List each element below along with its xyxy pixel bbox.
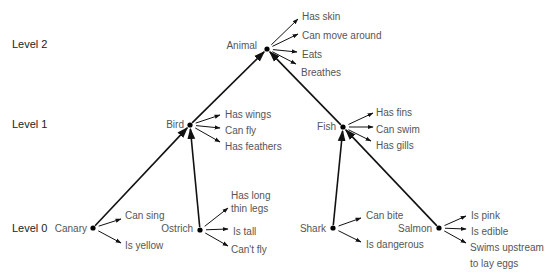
property-label: Can fly xyxy=(225,125,256,136)
property-arrow xyxy=(98,231,121,243)
node-dot-bird xyxy=(187,122,192,127)
property-label: Eats xyxy=(302,49,322,60)
property-label: Is edible xyxy=(471,226,509,237)
property-label: Can bite xyxy=(366,210,404,221)
isa-edge-shark-fish xyxy=(333,131,342,225)
property-label: Can move around xyxy=(302,30,382,41)
property-label: Can swim xyxy=(376,124,420,135)
property-arrow xyxy=(273,50,297,52)
node-label-shark: Shark xyxy=(300,223,327,234)
semantic-network-diagram: Level 2Level 1Level 0 Has skinCan move a… xyxy=(0,0,555,274)
level-label: Level 2 xyxy=(12,38,47,50)
property-arrow xyxy=(206,229,228,230)
property-label: Has skin xyxy=(302,11,340,22)
property-label: Has wings xyxy=(225,109,271,120)
property-label: Has long xyxy=(231,190,270,201)
property-arrow xyxy=(444,231,466,243)
property-label: Is dangerous xyxy=(366,239,424,250)
property-label: Has gills xyxy=(376,140,414,151)
node-dot-shark xyxy=(330,225,335,230)
property-arrow xyxy=(445,228,466,229)
property-arrow xyxy=(205,233,228,246)
property-label: Can't fly xyxy=(231,244,267,255)
level-label: Level 1 xyxy=(12,118,47,130)
property-label: Can sing xyxy=(125,210,164,221)
property-arrow xyxy=(195,128,220,142)
property-label: Is pink xyxy=(471,210,501,221)
level-labels: Level 2Level 1Level 0 xyxy=(12,38,47,234)
node-label-canary: Canary xyxy=(55,223,87,234)
isa-edge-fish-animal xyxy=(270,52,341,125)
property-arrow xyxy=(339,218,361,226)
node-dot-canary xyxy=(90,225,95,230)
property-arrow xyxy=(348,113,373,124)
property-label: Breathes xyxy=(301,67,341,78)
property-label: Has fins xyxy=(376,107,412,118)
property-arrow xyxy=(205,208,228,226)
property-label: to lay eggs xyxy=(470,258,518,269)
property-arrow xyxy=(196,126,220,128)
node-label-bird: Bird xyxy=(166,119,184,130)
property-label: Is yellow xyxy=(125,240,164,251)
node-label-fish: Fish xyxy=(317,121,336,132)
node-label-salmon: Salmon xyxy=(398,223,432,234)
property-arrow xyxy=(444,216,466,226)
property-label: Is tall xyxy=(233,226,256,237)
node-dot-fish xyxy=(340,124,345,129)
node-label-ostrich: Ostrich xyxy=(161,223,193,234)
property-arrow xyxy=(99,219,121,226)
level-label: Level 0 xyxy=(12,222,47,234)
node-dot-animal xyxy=(264,46,269,51)
property-label: thin legs xyxy=(231,203,268,214)
property-arrow xyxy=(338,231,361,242)
node-dot-salmon xyxy=(436,225,441,230)
node-label-animal: Animal xyxy=(226,40,257,51)
property-label: Has feathers xyxy=(225,141,282,152)
isa-edge-ostrich-bird xyxy=(190,129,199,227)
node-dot-ostrich xyxy=(197,227,202,232)
property-label: Swims upstream xyxy=(470,242,544,253)
